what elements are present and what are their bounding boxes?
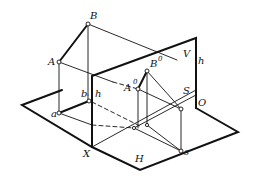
segment-A0B0 [138,71,147,89]
label-h-left: h [95,88,101,99]
label-V: V [183,48,192,59]
label-O: O [198,97,206,108]
point-S [179,107,183,111]
label-X: X [82,148,91,159]
segment-AB [59,24,88,62]
point-b [87,99,91,103]
projection-diagram: B A a b h A 0 B 0 V h S O s X H [0,0,255,178]
label-B: B [89,10,97,21]
point-A [57,60,61,64]
label-h-right: h [198,55,204,66]
label-A: A [47,56,55,67]
label-b: b [81,88,87,99]
svg-text:0: 0 [133,78,138,86]
point-a [57,111,61,115]
label-H: H [134,153,144,164]
v-plane-outline [92,38,196,147]
label-A0: A [123,82,131,93]
label-B0: B [149,58,157,69]
svg-text:0: 0 [158,55,163,63]
point-B0 [145,69,149,73]
point-s [179,149,183,153]
label-s: s [184,146,189,157]
point-A0 [136,87,140,91]
label-a: a [51,108,57,119]
point-B [86,22,90,26]
label-S: S [183,85,190,96]
